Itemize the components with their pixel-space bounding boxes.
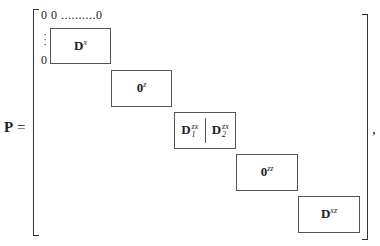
block-zero-z: 0z (111, 70, 172, 107)
block-subscript: 2 (222, 131, 229, 139)
block-d-xz: Dxz (298, 196, 360, 233)
matrix-symbol: P (4, 119, 13, 135)
block-subscript: 1 (192, 131, 199, 139)
right-bracket (362, 14, 368, 240)
block-d2-zx: Dzx2 (206, 113, 236, 148)
block-superscript: x (83, 38, 87, 47)
top-zero-row: 0 0 ..........0 (41, 8, 103, 23)
left-bracket (33, 9, 39, 236)
matrix-name: P = (4, 119, 25, 136)
block-d-zx-split: Dzx1 Dzx2 (174, 112, 236, 149)
block-base: D (212, 122, 221, 137)
trailing-comma: , (372, 121, 376, 138)
block-base: D (74, 38, 83, 53)
block-superscript: zz (267, 164, 273, 173)
block-d1-zx: Dzx1 (175, 113, 205, 148)
block-d-x: Dx (50, 28, 111, 64)
left-column-zero: 0 (41, 53, 47, 68)
block-superscript: z (143, 80, 146, 89)
block-base: D (181, 122, 190, 137)
equals-sign: = (17, 119, 25, 135)
block-zero-zz: 0zz (236, 154, 298, 191)
vertical-dots: ··· (42, 32, 48, 47)
block-superscript: xz (330, 206, 337, 215)
block-base: D (321, 207, 330, 222)
